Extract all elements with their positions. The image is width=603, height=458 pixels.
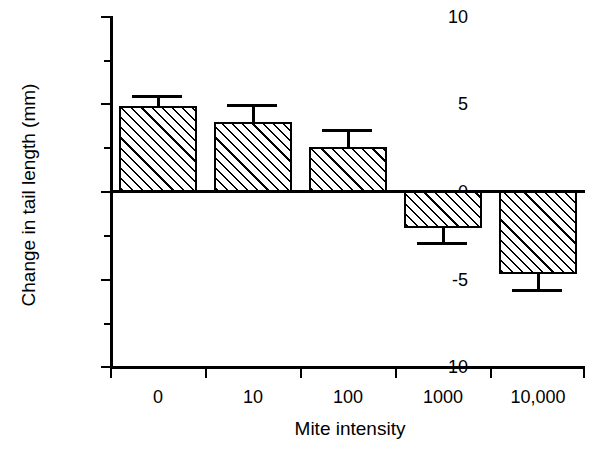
- error-bar-stem-2: [347, 130, 350, 148]
- error-bar-stem-0: [157, 97, 160, 108]
- plot-area: 10 5 0 -5 -10 0 10 100 1000 10,000: [110, 16, 585, 368]
- x-tick: [395, 369, 397, 378]
- x-tick: [110, 369, 112, 378]
- error-bar-cap-2: [322, 129, 372, 132]
- y-tick-label: 10: [428, 8, 468, 26]
- x-tick: [490, 369, 492, 378]
- y-tick-major: [101, 103, 110, 105]
- error-bar-cap-4: [512, 289, 562, 292]
- error-bar-cap-3: [417, 242, 467, 245]
- x-tick-label: 10,000: [478, 388, 598, 406]
- x-tick: [583, 369, 585, 378]
- y-tick-label: -10: [428, 358, 468, 376]
- error-bar-stem-4: [537, 272, 540, 291]
- x-tick: [300, 369, 302, 378]
- chart-figure: Change in tail length (mm) 10 5 0 -5 -10…: [0, 0, 603, 458]
- error-bar-cap-0: [132, 95, 182, 98]
- x-tick: [205, 369, 207, 378]
- y-axis-title: Change in tail length (mm): [14, 0, 44, 390]
- bar-4: [499, 191, 577, 274]
- y-tick-major: [101, 191, 110, 193]
- y-tick-minor: [104, 235, 110, 237]
- y-tick-minor: [104, 323, 110, 325]
- y-tick-major: [101, 279, 110, 281]
- error-bar-cap-1: [227, 104, 277, 107]
- bar-3: [404, 191, 482, 228]
- y-tick-major: [101, 366, 110, 368]
- bar-2: [309, 147, 387, 192]
- y-tick-label: -5: [428, 271, 468, 289]
- bar-0: [119, 106, 197, 192]
- y-tick-minor: [104, 147, 110, 149]
- bar-1: [214, 122, 292, 192]
- y-tick-major: [101, 16, 110, 18]
- x-axis-title: Mite intensity: [110, 418, 590, 440]
- error-bar-stem-1: [252, 105, 255, 124]
- y-tick-label: 5: [428, 95, 468, 113]
- x-axis-line: [110, 366, 585, 369]
- y-tick-minor: [104, 60, 110, 62]
